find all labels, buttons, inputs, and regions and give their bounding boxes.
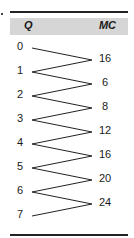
bottom-rule xyxy=(10,234,128,236)
zigzag-connector-lines xyxy=(0,0,134,238)
